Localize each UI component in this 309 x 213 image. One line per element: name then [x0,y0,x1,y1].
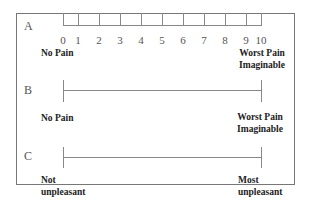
scale-a-letter: A [24,19,33,34]
tick-7 [204,13,205,26]
scale-b-right-label-line2: Imaginable [230,123,290,135]
scale-c-right-label-line2: unpleasant [238,186,282,198]
tick-10 [261,13,262,26]
scale-c-left-end [63,147,64,168]
scale-c-letter: C [24,149,32,164]
scale-b-line [63,90,261,91]
tick-5 [162,13,163,26]
scale-a-left-label: No Pain [41,47,73,59]
scale-b-letter: B [24,83,32,98]
scale-c-right-label: Most unpleasant [238,174,282,198]
scale-a-right-label-line2: Imaginable [232,59,292,71]
tick-0 [63,13,64,26]
figure-frame [16,13,295,185]
tick-4 [141,13,142,26]
tick-label-10: 10 [256,34,267,46]
tick-label-0: 0 [60,34,66,46]
tick-label-6: 6 [180,34,186,46]
tick-1 [78,13,79,26]
tick-label-4: 4 [138,34,144,46]
tick-label-1: 1 [75,34,81,46]
scale-c-right-label-line1: Most [238,174,282,186]
scale-c-left-label-line2: unpleasant [41,186,85,198]
scale-b-right-label-line1: Worst Pain [230,111,290,123]
tick-label-5: 5 [159,34,165,46]
scale-b-right-end [261,80,262,102]
tick-8 [225,13,226,26]
scale-b-left-label: No Pain [41,112,73,124]
scale-b-left-end [63,80,64,102]
tick-label-3: 3 [117,34,123,46]
scale-a-right-label: Worst Pain Imaginable [232,47,292,71]
tick-2 [99,13,100,26]
scale-c-right-end [261,147,262,168]
scale-c-left-label: Not unpleasant [41,174,85,198]
tick-3 [120,13,121,26]
tick-6 [183,13,184,26]
scale-c-line [63,157,261,158]
tick-label-9: 9 [243,34,249,46]
tick-label-2: 2 [96,34,102,46]
tick-9 [246,13,247,26]
scale-b-right-label: Worst Pain Imaginable [230,111,290,135]
tick-label-7: 7 [201,34,207,46]
scale-a-right-label-line1: Worst Pain [232,47,292,59]
tick-label-8: 8 [222,34,228,46]
scale-c-left-label-line1: Not [41,174,85,186]
